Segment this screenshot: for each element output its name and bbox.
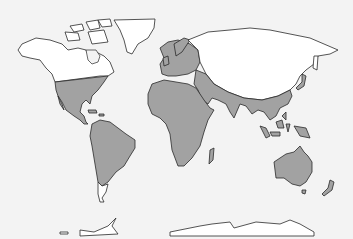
kamchatka	[313, 56, 318, 70]
north-america-north	[18, 38, 114, 82]
tasmania	[302, 190, 306, 194]
arctic-islands	[65, 19, 112, 44]
antarctica-east	[170, 220, 314, 236]
antarctic-islet	[60, 232, 68, 234]
madagascar	[209, 148, 214, 164]
usa-mexico	[55, 76, 108, 124]
south-america	[90, 120, 135, 186]
caribbean-islands	[88, 110, 104, 116]
british-isles	[163, 56, 169, 66]
new-zealand	[322, 180, 334, 196]
antarctic-peninsula	[80, 218, 118, 236]
greenland	[114, 19, 155, 54]
australia	[274, 146, 312, 186]
world-map	[0, 0, 353, 239]
